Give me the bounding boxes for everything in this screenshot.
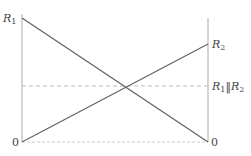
right-zero-label: 0 — [211, 136, 218, 149]
parallel-label: R1‖R2 — [211, 80, 244, 94]
resistance-diagram: R1 R2 R1‖R2 0 0 — [0, 0, 251, 156]
r1-label: R1 — [2, 12, 16, 26]
r2-line — [22, 44, 208, 142]
left-zero-label: 0 — [12, 136, 19, 149]
r1-line — [22, 18, 208, 142]
r2-label: R2 — [211, 38, 225, 52]
